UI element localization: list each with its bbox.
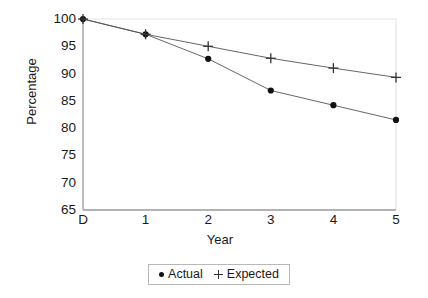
x-tick-label: 2 [196, 212, 220, 227]
data-point-expected [141, 29, 151, 39]
plus-icon [214, 270, 223, 279]
y-tick-label: 80 [36, 121, 76, 135]
data-point-actual [268, 87, 274, 93]
data-point-expected [203, 41, 213, 51]
data-point-expected [78, 14, 88, 24]
y-tick-label: 75 [36, 148, 76, 162]
data-point-expected [328, 63, 338, 73]
x-tick-label: 1 [134, 212, 158, 227]
series-layer [78, 14, 401, 123]
chart-legend: Actual Expected [148, 264, 290, 285]
x-tick-label: 4 [321, 212, 345, 227]
series-line-expected [83, 19, 396, 77]
x-axis-title: Year [160, 232, 280, 247]
y-tick-label: 95 [36, 39, 76, 53]
y-tick-label: 70 [36, 176, 76, 190]
y-tick-label: 100 [36, 12, 76, 26]
legend-item-expected: Expected [214, 268, 279, 281]
x-tick-label: D [71, 212, 95, 227]
data-point-actual [393, 117, 399, 123]
filled-circle-icon [159, 272, 164, 277]
y-tick-label: 85 [36, 94, 76, 108]
series-line-actual [83, 19, 396, 120]
legend-label-actual: Actual [168, 268, 203, 281]
data-point-actual [205, 56, 211, 62]
y-axis-title: Percentage [24, 47, 39, 137]
y-tick-label: 90 [36, 67, 76, 81]
y-tick-label: 65 [36, 203, 76, 217]
x-tick-label: 5 [384, 212, 408, 227]
data-point-expected [391, 72, 401, 82]
legend-item-actual: Actual [159, 268, 203, 281]
line-chart: 10095908580757065 D12345 Percentage Year… [0, 0, 428, 298]
legend-label-expected: Expected [227, 268, 279, 281]
data-point-actual [330, 102, 336, 108]
data-point-expected [266, 53, 276, 63]
x-tick-label: 3 [259, 212, 283, 227]
